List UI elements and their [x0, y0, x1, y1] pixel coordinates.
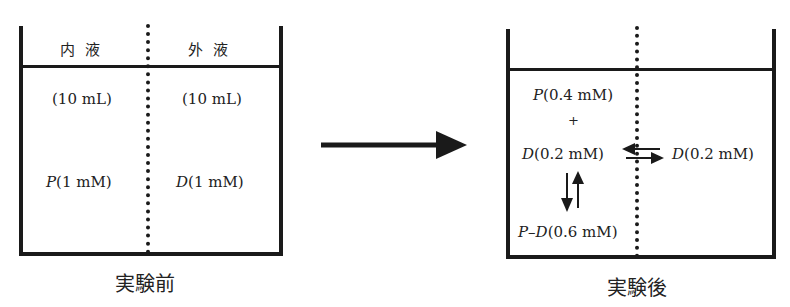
equilibrium-horizontal-icon — [622, 143, 664, 164]
right-arrow-icon — [321, 131, 467, 159]
arrows-layer — [0, 0, 790, 307]
equilibrium-vertical-icon — [561, 171, 584, 212]
